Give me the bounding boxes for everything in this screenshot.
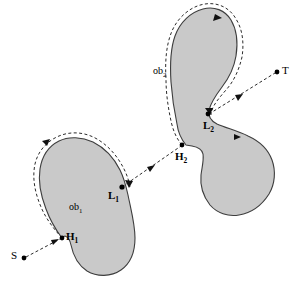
label-leave-point-1: L1 (108, 190, 119, 204)
label-start: S (11, 250, 17, 261)
label-leave-point-2: L2 (203, 120, 214, 134)
obstacle-2-shape (170, 8, 274, 215)
label-target-text: T (282, 64, 289, 76)
node-dot-h2 (180, 143, 185, 148)
label-obstacle-1-base: ob (69, 201, 79, 212)
label-obstacle-1-sub: 1 (79, 207, 82, 214)
label-start-text: S (11, 249, 17, 261)
arrow-l1-to-h2 (147, 165, 155, 172)
node-dot-t (275, 70, 280, 75)
path-planning-diagram: S T ob1 ob2 H1 H2 L1 L2 (0, 0, 301, 291)
label-hit-point-1-base: H (66, 230, 75, 242)
arrow-contour-obstacle-1 (42, 139, 50, 146)
label-hit-point-2: H2 (175, 151, 187, 165)
label-hit-point-1-sub: 1 (75, 236, 79, 245)
node-dot-h1 (60, 236, 65, 241)
label-hit-point-2-base: H (175, 150, 184, 162)
label-hit-point-1: H1 (66, 231, 78, 245)
node-dot-s (22, 256, 27, 261)
node-dot-l1 (119, 184, 124, 189)
arrow-l2-to-t (235, 94, 243, 101)
label-obstacle-2: ob2 (153, 66, 166, 79)
label-leave-point-2-sub: 2 (210, 125, 214, 134)
label-obstacle-1: ob1 (69, 202, 82, 215)
label-leave-point-1-sub: 1 (115, 195, 119, 204)
obstacle-1-shape (39, 138, 135, 276)
label-obstacle-2-base: ob (153, 65, 163, 76)
label-target: T (282, 65, 289, 76)
label-obstacle-2-sub: 2 (163, 71, 166, 78)
diagram-canvas (0, 0, 301, 291)
label-hit-point-2-sub: 2 (184, 156, 188, 165)
node-dot-l2 (206, 112, 211, 117)
arrow-s-to-h1 (51, 239, 59, 245)
